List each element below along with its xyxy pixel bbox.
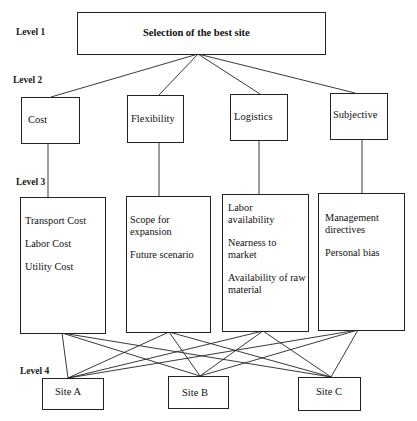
criterion-node-logistics: Logistics [230, 94, 288, 141]
alternative-label: Site C [316, 386, 342, 397]
criterion-node-subjective: Subjective [330, 93, 388, 140]
factor-list: Management directives Personal bias [325, 212, 393, 270]
alternative-label: Site A [55, 386, 81, 397]
factor-item: Availability of raw material [228, 272, 306, 296]
factor-item: Transport Cost [25, 215, 105, 227]
factor-box-logistics: Labor availability Nearness to market Av… [222, 194, 309, 332]
level-4-label: Level 4 [20, 366, 49, 376]
criterion-label: Flexibility [131, 113, 175, 124]
factor-list: Labor availability Nearness to market Av… [228, 202, 306, 307]
criterion-node-cost: Cost [21, 97, 80, 144]
level-2-label: Level 2 [13, 75, 42, 85]
factor-item: Labor Cost [25, 238, 105, 250]
alternative-node-site-a: Site A [42, 378, 104, 410]
factor-item: Utility Cost [25, 261, 105, 273]
factor-list: Transport Cost Labor Cost Utility Cost [25, 215, 105, 284]
alternative-node-site-c: Site C [298, 377, 361, 411]
alternative-label: Site B [182, 387, 208, 398]
factor-box-cost: Transport Cost Labor Cost Utility Cost [20, 197, 106, 334]
criterion-label: Logistics [234, 111, 273, 122]
level-1-label: Level 1 [16, 27, 45, 37]
criterion-label: Subjective [333, 109, 377, 120]
goal-node: Selection of the best site [77, 12, 326, 55]
alternative-node-site-b: Site B [168, 376, 229, 409]
factor-list: Scope for expansion Future scenario [130, 214, 192, 272]
factor-item: Scope for expansion [130, 214, 192, 238]
criterion-node-flexibility: Flexibility [127, 95, 184, 143]
level-3-label: Level 3 [16, 177, 45, 187]
factor-item: Personal bias [325, 247, 415, 259]
factor-item: Nearness to market [228, 237, 288, 261]
factor-item: Labor availability [228, 202, 283, 226]
goal-label: Selection of the best site [143, 27, 250, 38]
factor-item: Future scenario [130, 249, 220, 261]
factor-box-flexibility: Scope for expansion Future scenario [126, 196, 211, 333]
criterion-label: Cost [28, 114, 47, 125]
factor-item: Management directives [325, 212, 393, 236]
factor-box-subjective: Management directives Personal bias [318, 193, 405, 331]
